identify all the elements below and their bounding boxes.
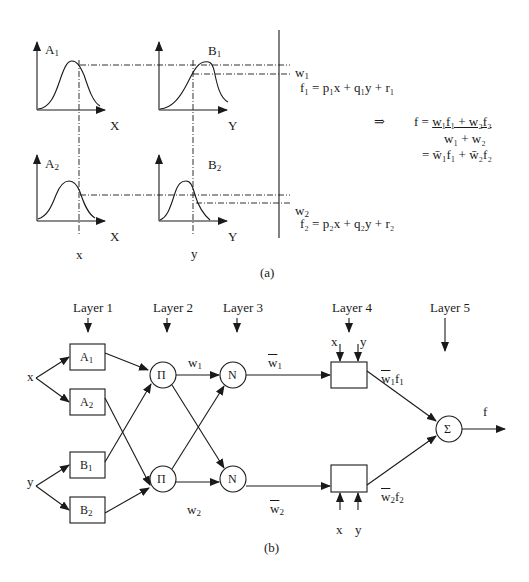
layer-3-label: Layer 3: [223, 301, 263, 314]
layer-2-label: Layer 2: [153, 301, 193, 314]
axis-label-x1: X: [110, 119, 119, 132]
formula-line1: f = w₁f₁ + w₂f₂: [414, 115, 492, 128]
formula-denominator: w₁ + w₂: [444, 132, 486, 145]
edge-wbar1-f1: w1f1: [381, 372, 404, 387]
input-value-y: y: [191, 247, 198, 260]
label-b1: B1: [208, 44, 221, 59]
input-y: y: [27, 475, 34, 488]
pi-1-symbol: Π: [157, 369, 166, 381]
layer-1-label: Layer 1: [73, 301, 113, 314]
weight-w1: w1: [295, 66, 309, 81]
label-b2: B2: [208, 158, 221, 173]
edge-wbar2-f2: w2f2: [381, 490, 404, 505]
input-value-x: x: [76, 248, 83, 261]
input-x: x: [27, 370, 34, 383]
caption-b: (b): [264, 541, 279, 554]
edge-wbar1: w1: [268, 356, 282, 371]
caption-a: (a): [260, 266, 274, 279]
n-1-symbol: N: [228, 369, 237, 381]
edge-wbar2: w2: [270, 502, 284, 517]
layer4-top-input-x: x: [331, 335, 338, 348]
axis-label-x2: X: [110, 230, 119, 243]
node-layer4-1: [331, 362, 367, 388]
sigma-symbol: Σ: [444, 423, 451, 435]
axis-label-y1: Y: [228, 119, 237, 132]
label-a2: A2: [45, 157, 59, 172]
node-b2-label: B2: [80, 504, 93, 518]
node-b1-label: B1: [80, 459, 93, 473]
output-f: f: [483, 405, 487, 418]
rule-f2: f₂ = p₂x + q₂y + r₂: [300, 217, 394, 230]
layer-4-label: Layer 4: [332, 301, 372, 314]
layer4-top-input-y: y: [360, 335, 367, 348]
guide-lines: [79, 60, 290, 236]
implies-arrow: ⇒: [374, 115, 385, 128]
axis-label-y2: Y: [228, 230, 237, 243]
label-a1: A1: [45, 43, 59, 58]
anfis-diagram: [0, 0, 529, 582]
layer4-bottom-input-x: x: [336, 523, 343, 536]
pi-2-symbol: Π: [157, 473, 166, 485]
node-a2-label: A2: [80, 396, 93, 410]
node-a1-label: A1: [80, 351, 93, 365]
layer-5-label: Layer 5: [430, 301, 470, 314]
layer4-bottom-input-y: y: [355, 523, 362, 536]
rule-f1: f₁ = p₁x + q₁y + r₁: [300, 81, 394, 94]
edge-w2: w2: [187, 503, 201, 518]
edge-w1: w1: [188, 356, 202, 371]
node-layer4-2: [331, 465, 367, 492]
n-2-symbol: N: [228, 473, 237, 485]
layer-arrows: [88, 318, 445, 351]
formula-line3: = w̄₁f₁ + w̄₂f₂: [422, 148, 492, 161]
